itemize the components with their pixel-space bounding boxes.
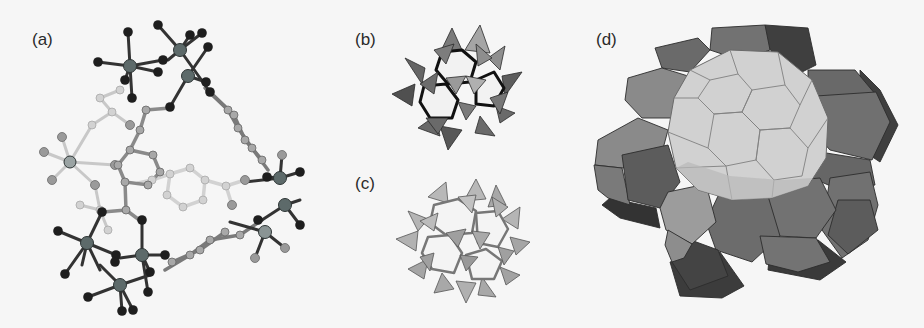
- panel-d: (d): [580, 0, 924, 328]
- panel-a: (a): [0, 0, 310, 328]
- tetrahedral-cluster-light: [340, 165, 580, 328]
- molecular-cage-illustration: [0, 0, 310, 328]
- cage-tiling-illustration: [580, 0, 924, 328]
- tetrahedral-cluster-dark: [340, 0, 580, 165]
- panel-b: (b): [340, 0, 580, 165]
- panel-c: (c): [340, 165, 580, 328]
